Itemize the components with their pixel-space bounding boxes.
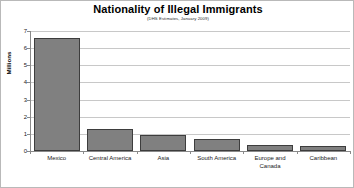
y-axis-label: Millions — [5, 63, 12, 75]
plot-area: 01234567 MexicoCentral AmericaAsiaSouth … — [30, 31, 350, 151]
x-axis-tick — [350, 151, 351, 154]
y-axis-tick-label: 3 — [24, 97, 27, 103]
x-axis-tick-label: Asia — [137, 155, 190, 163]
x-axis-tick-label: Mexico — [30, 155, 83, 163]
bar — [140, 135, 186, 151]
y-axis-tick-label: 4 — [24, 79, 27, 85]
bar — [300, 146, 346, 151]
y-axis-line — [30, 31, 31, 151]
bar — [34, 38, 80, 151]
x-axis-tick — [83, 151, 84, 154]
y-axis-tick-label: 7 — [24, 28, 27, 34]
x-axis-tick-label: Caribbean — [297, 155, 350, 163]
y-axis-tick-label: 5 — [24, 62, 27, 68]
gridline — [30, 31, 350, 32]
y-axis-tick-label: 2 — [24, 114, 27, 120]
x-axis-tick — [190, 151, 191, 154]
x-axis-tick — [297, 151, 298, 154]
bar — [87, 129, 133, 151]
y-axis-tick-label: 1 — [24, 131, 27, 137]
x-axis-tick — [137, 151, 138, 154]
x-axis-tick — [30, 151, 31, 154]
bar — [194, 139, 240, 151]
bar — [247, 145, 293, 151]
x-axis-tick — [243, 151, 244, 154]
y-axis-tick-label: 0 — [24, 148, 27, 154]
y-axis-tick-label: 6 — [24, 45, 27, 51]
chart-title: Nationality of Illegal Immigrants — [1, 3, 354, 16]
title-block: Nationality of Illegal Immigrants (DHS E… — [1, 3, 354, 22]
x-axis-tick-label: Central America — [83, 155, 136, 163]
x-axis-tick-label: South America — [190, 155, 243, 163]
chart-subtitle: (DHS Estimates, January 2009) — [1, 16, 354, 22]
x-axis-tick-label: Europe and Canada — [243, 155, 296, 170]
chart-figure: Nationality of Illegal Immigrants (DHS E… — [0, 0, 354, 188]
